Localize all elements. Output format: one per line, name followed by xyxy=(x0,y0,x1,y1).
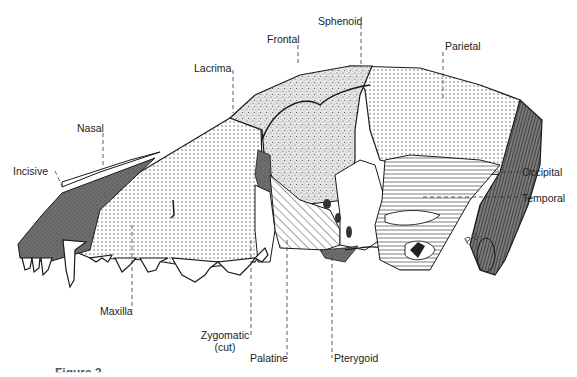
skull-illustration: P.B. xyxy=(0,0,577,377)
label-palatine: Palatine xyxy=(250,352,288,364)
skull-diagram: P.B. Incisive Nasal Lacrima Frontal Sphe… xyxy=(0,0,577,377)
label-zygomatic-line2: (cut) xyxy=(215,341,236,353)
label-maxilla: Maxilla xyxy=(100,305,133,317)
label-incisive: Incisive xyxy=(13,165,48,177)
label-zygomatic-line1: Zygomatic xyxy=(201,329,249,341)
label-temporal: Temporal xyxy=(522,192,565,204)
label-sphenoid: Sphenoid xyxy=(318,15,362,27)
label-occipital: Occipital xyxy=(522,166,562,178)
label-parietal: Parietal xyxy=(445,40,481,52)
label-nasal: Nasal xyxy=(77,122,104,134)
label-zygomatic: Zygomatic (cut) xyxy=(200,329,250,353)
sphenoid-foramen xyxy=(335,213,341,223)
label-lacrimal: Lacrima xyxy=(194,62,231,74)
occipital-condyle xyxy=(477,238,495,272)
sphenoid-foramen xyxy=(346,226,352,238)
label-frontal: Frontal xyxy=(267,33,300,45)
sphenoid-foramen xyxy=(323,199,331,209)
label-pterygoid: Pterygoid xyxy=(334,352,378,364)
